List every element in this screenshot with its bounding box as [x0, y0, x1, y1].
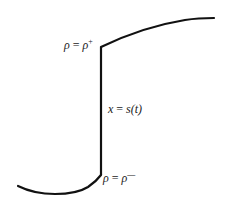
upper-state-eq: =	[73, 38, 80, 52]
upper-state-sup: +	[88, 37, 93, 46]
shock-position-label: x = s(t)	[108, 103, 142, 115]
upper-state-lhs: ρ	[64, 38, 70, 52]
lower-state-sup: —	[127, 170, 135, 179]
shock-rhs: s(t)	[126, 102, 142, 116]
upper-state-label: ρ = ρ+	[64, 38, 93, 51]
upper-state-curve	[101, 18, 214, 47]
shock-eq: =	[116, 102, 123, 116]
lower-state-eq: =	[112, 171, 119, 185]
lower-state-lhs: ρ	[103, 171, 109, 185]
lower-state-label: ρ = ρ—	[103, 171, 135, 184]
shock-lhs: x	[108, 102, 113, 116]
lower-state-curve	[18, 175, 101, 194]
